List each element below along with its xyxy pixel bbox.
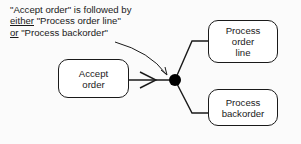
annotation-line-1: "Accept order" is followed by: [10, 4, 131, 15]
node-accept-order: Accept order: [58, 59, 129, 98]
annotation-line-2: either "Process order line": [10, 15, 131, 26]
annotation-note: "Accept order" is followed by either "Pr…: [10, 4, 131, 38]
node-process-order-line: Process order line: [208, 20, 278, 63]
annotation-line-3: or "Process backorder": [10, 27, 131, 38]
node-process-backorder: Process backorder: [208, 89, 278, 126]
selection-junction-dot: [169, 74, 181, 86]
flow-junction-to-backorder: [175, 80, 208, 113]
flow-junction-to-order-line: [175, 41, 208, 80]
